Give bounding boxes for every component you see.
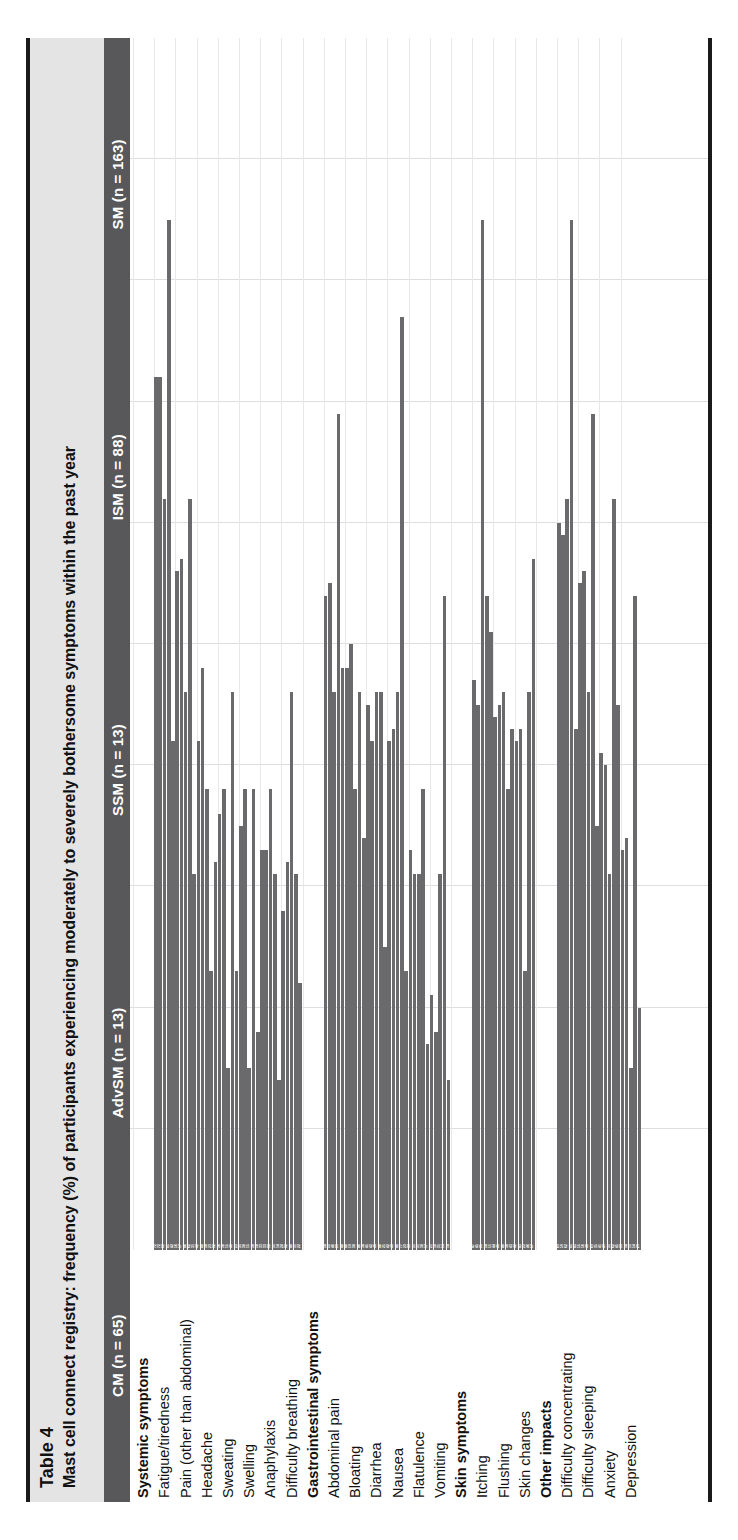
bar: 33 — [264, 850, 268, 1250]
bar: 43 — [392, 729, 396, 1250]
row-label: Vomiting — [430, 1254, 451, 1498]
bar: 42 — [370, 741, 374, 1250]
bar: 20 — [638, 1008, 642, 1250]
row-label: Depression — [621, 1254, 642, 1498]
bar: 34 — [625, 838, 629, 1250]
bar: 54 — [633, 596, 637, 1250]
data-row: 3331313817 — [409, 38, 430, 1250]
bar: 43 — [574, 729, 578, 1250]
bar: 31 — [417, 874, 421, 1250]
bar: 57 — [180, 559, 184, 1250]
data-row: 4248382332 — [197, 38, 218, 1250]
bar: 46 — [358, 692, 362, 1250]
bar: 17 — [426, 1044, 430, 1250]
bar: 69 — [591, 414, 595, 1250]
bar: 48 — [341, 668, 345, 1250]
data-row: 2832463122 — [281, 38, 302, 1250]
bar: 44 — [493, 717, 497, 1250]
row-label: Anaphylaxis — [260, 1254, 281, 1498]
bar: 38 — [205, 789, 209, 1250]
bar: 46 — [396, 692, 400, 1250]
bar: 42 — [515, 741, 519, 1250]
bar: 46 — [184, 692, 188, 1250]
data-row: 5556466935 — [578, 38, 599, 1250]
data-row: 5657466231 — [175, 38, 196, 1250]
bar: 54 — [443, 596, 447, 1250]
bar: 28 — [281, 911, 285, 1250]
row-label: Fatigue/tiredness — [154, 1254, 175, 1498]
bar: 38 — [252, 789, 256, 1250]
row-label: Headache — [197, 1254, 218, 1498]
bar: 42 — [387, 741, 391, 1250]
group-label: Skin symptoms — [451, 1254, 472, 1498]
bar: 47 — [472, 680, 476, 1250]
bar: 54 — [485, 596, 489, 1250]
bar-value-label: 20 — [638, 1244, 641, 1248]
series-header-band: SM (n = 163)ISM (n = 88)SSM (n = 13)AdvS… — [104, 38, 130, 1502]
bar: 72 — [154, 377, 158, 1250]
row-label: Bloating — [345, 1254, 366, 1498]
data-row: 4243234657 — [515, 38, 536, 1250]
row-separator — [451, 38, 452, 1250]
bar: 62 — [612, 499, 616, 1250]
bar-plot-area: 7272628542565746623142483823323638154623… — [130, 38, 708, 1250]
series-header-3: AdvSM (n = 13) — [104, 916, 130, 1209]
bar: 51 — [489, 632, 493, 1250]
series-header-0: SM (n = 163) — [104, 38, 130, 331]
group-label: Gastrointestinal symptoms — [303, 1254, 324, 1498]
bar: 25 — [383, 947, 387, 1250]
bar: 23 — [235, 971, 239, 1250]
data-row: 4850384634 — [345, 38, 366, 1250]
bar: 32 — [214, 862, 218, 1250]
row-label-column: Systemic symptomsFatigue/tirednessPain (… — [130, 1250, 708, 1502]
row-separator — [303, 38, 304, 1250]
group-row — [451, 38, 472, 1250]
bar: 31 — [192, 874, 196, 1250]
series-header-1: ISM (n = 88) — [104, 331, 130, 624]
bar: 46 — [587, 692, 591, 1250]
bar: 21 — [430, 995, 434, 1250]
bar-value-label: 22 — [299, 1244, 302, 1248]
data-row: 3538153818 — [239, 38, 260, 1250]
bar: 46 — [379, 692, 383, 1250]
data-row: 7272628542 — [154, 38, 175, 1250]
table-description: Mast cell connect registry: frequency (%… — [60, 52, 81, 1488]
bar: 23 — [404, 971, 408, 1250]
data-row: 6059628543 — [557, 38, 578, 1250]
bar: 31 — [608, 874, 612, 1250]
bar: 46 — [290, 692, 294, 1250]
row-label: Flatulence — [409, 1254, 430, 1498]
bar: 32 — [286, 862, 290, 1250]
bar: 38 — [353, 789, 357, 1250]
row-label: Difficulty breathing — [281, 1254, 302, 1498]
bar: 48 — [345, 668, 349, 1250]
bar: 42 — [171, 741, 175, 1250]
data-row: 4745855451 — [472, 38, 493, 1250]
bar: 45 — [616, 705, 620, 1250]
row-label: Swelling — [239, 1254, 260, 1498]
bar: 46 — [231, 692, 235, 1250]
bar: 46 — [527, 692, 531, 1250]
bar: 14 — [277, 1080, 281, 1250]
bar: 15 — [226, 1068, 230, 1250]
table-4-figure: Table 4 Mast cell connect registry: freq… — [26, 38, 712, 1502]
series-header-2: SSM (n = 13) — [104, 624, 130, 917]
data-row: 3333383114 — [260, 38, 281, 1250]
bar: 62 — [188, 499, 192, 1250]
bar: 46 — [502, 692, 506, 1250]
bar: 50 — [349, 644, 353, 1250]
bar: 38 — [269, 789, 273, 1250]
data-row: 3334155420 — [621, 38, 642, 1250]
bar: 55 — [578, 583, 582, 1250]
bar: 23 — [523, 971, 527, 1250]
row-label: Nausea — [387, 1254, 408, 1498]
bottom-rule — [708, 38, 712, 1502]
bar-value-label: 57 — [532, 1244, 535, 1248]
bar: 23 — [209, 971, 213, 1250]
row-separator — [536, 38, 537, 1250]
bar: 77 — [400, 317, 404, 1250]
bar: 43 — [519, 729, 523, 1250]
bar: 56 — [582, 571, 586, 1250]
bar: 45 — [476, 705, 480, 1250]
table-caption: Table 4 Mast cell connect registry: freq… — [30, 38, 104, 1502]
